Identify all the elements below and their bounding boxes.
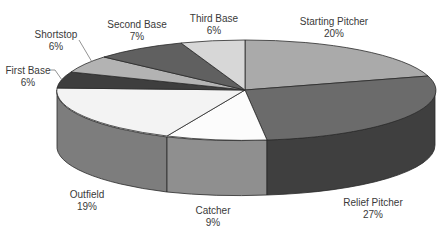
svg-text:Relief Pitcher: Relief Pitcher: [343, 197, 403, 208]
svg-text:Starting Pitcher: Starting Pitcher: [300, 16, 369, 27]
pie-chart: Starting Pitcher 20% Third Base 6% Secon…: [0, 0, 445, 235]
label-catcher: Catcher 9%: [195, 205, 231, 228]
svg-text:First Base: First Base: [5, 65, 50, 76]
svg-text:Second Base: Second Base: [107, 19, 167, 30]
svg-text:6%: 6%: [49, 41, 64, 52]
leader-line-shortstop: [79, 40, 92, 62]
svg-text:27%: 27%: [363, 209, 383, 220]
svg-text:6%: 6%: [21, 77, 36, 88]
label-first-base: First Base 6%: [5, 65, 50, 88]
pie-chart-svg: Starting Pitcher 20% Third Base 6% Secon…: [0, 0, 445, 235]
svg-text:Shortstop: Shortstop: [35, 29, 78, 40]
svg-text:6%: 6%: [207, 25, 222, 36]
svg-text:Outfield: Outfield: [70, 189, 104, 200]
label-starting-pitcher: Starting Pitcher 20%: [300, 16, 369, 39]
svg-text:19%: 19%: [77, 201, 97, 212]
svg-text:20%: 20%: [324, 28, 344, 39]
svg-text:7%: 7%: [130, 31, 145, 42]
label-outfield: Outfield 19%: [70, 189, 104, 212]
label-third-base: Third Base 6%: [190, 13, 239, 36]
svg-text:Third Base: Third Base: [190, 13, 239, 24]
label-shortstop: Shortstop 6%: [35, 29, 78, 52]
leader-line-first-base: [50, 70, 62, 80]
svg-text:Catcher: Catcher: [195, 205, 231, 216]
slice-catcher-side: [167, 137, 267, 196]
svg-text:9%: 9%: [206, 217, 221, 228]
label-relief-pitcher: Relief Pitcher 27%: [343, 197, 403, 220]
label-second-base: Second Base 7%: [107, 19, 167, 42]
